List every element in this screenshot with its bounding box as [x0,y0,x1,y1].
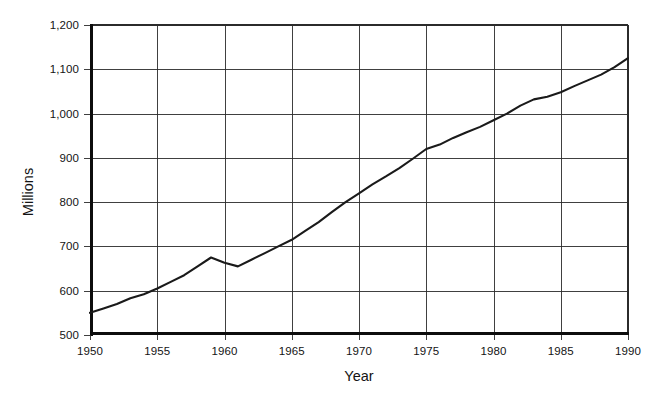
x-tick-label: 1960 [212,345,238,357]
y-tick-label: 1,100 [50,63,79,75]
y-tick-marks [84,26,90,336]
x-tick-label: 1980 [481,345,507,357]
y-tick-label: 800 [60,196,80,208]
y-tick-label: 1,200 [50,19,79,31]
line-chart: 5006007008009001,0001,1001,200 195019551… [0,0,656,396]
y-tick-label: 1,000 [50,108,79,120]
y-tick-label: 500 [60,329,80,341]
x-tick-labels: 195019551960196519701975198019851990 [77,345,641,357]
y-axis-title: Millions [20,168,36,216]
chart-figure: 5006007008009001,0001,1001,200 195019551… [0,0,656,396]
x-axis-title: Year [344,368,373,384]
x-tick-label: 1950 [77,345,103,357]
y-tick-labels: 5006007008009001,0001,1001,200 [50,19,79,341]
x-tick-label: 1975 [413,345,439,357]
x-tick-label: 1965 [279,345,305,357]
x-tick-label: 1970 [346,345,372,357]
y-tick-label: 900 [60,152,80,164]
y-tick-label: 700 [60,240,80,252]
x-tick-label: 1985 [548,345,574,357]
x-tick-label: 1955 [144,345,170,357]
plot-background [90,25,628,335]
y-tick-label: 600 [60,285,80,297]
x-tick-label: 1990 [615,345,641,357]
x-tick-marks [91,335,629,340]
